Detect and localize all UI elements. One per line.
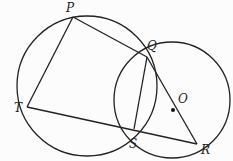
segment-QS	[134, 57, 147, 129]
label-P: P	[66, 2, 74, 14]
segment-TR	[27, 107, 197, 144]
segment-PQ	[73, 17, 147, 57]
center-point-O	[171, 108, 175, 112]
segment-PT	[27, 17, 73, 107]
geometry-diagram: P Q T S R O	[0, 0, 233, 161]
label-T: T	[14, 102, 22, 114]
segment-QR	[147, 57, 197, 144]
label-O: O	[178, 93, 188, 105]
diagram-canvas	[0, 0, 233, 161]
label-Q: Q	[147, 40, 157, 52]
label-R: R	[201, 144, 210, 156]
label-S: S	[129, 138, 137, 150]
